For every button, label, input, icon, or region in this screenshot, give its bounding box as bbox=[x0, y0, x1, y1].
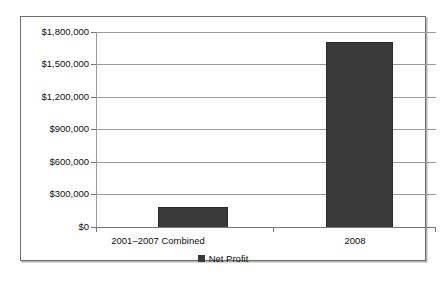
y-axis-label-900000: $900,000 bbox=[49, 124, 89, 134]
y-axis-labels: $1,800,000 $1,500,000 $1,200,000 $900,00… bbox=[21, 32, 89, 228]
x-axis-line bbox=[96, 227, 436, 228]
y-tick-900000 bbox=[91, 129, 96, 130]
y-axis-label-1500000: $1,500,000 bbox=[41, 59, 89, 69]
y-axis-label-300000: $300,000 bbox=[49, 189, 89, 199]
chart-frame: $1,800,000 $1,500,000 $1,200,000 $900,00… bbox=[20, 16, 426, 261]
bar-2008[interactable] bbox=[326, 42, 393, 228]
x-axis-label-2008: 2008 bbox=[275, 235, 435, 246]
y-axis-label-1200000: $1,200,000 bbox=[41, 92, 89, 102]
bar-2001-2007-combined[interactable] bbox=[158, 207, 228, 228]
y-axis-label-600000: $600,000 bbox=[49, 157, 89, 167]
y-tick-1800000 bbox=[91, 32, 96, 33]
gridline-1800000 bbox=[96, 32, 436, 33]
y-axis-line bbox=[96, 32, 97, 228]
plot-area bbox=[96, 32, 436, 228]
y-axis-label-0: $0 bbox=[78, 222, 89, 232]
y-tick-600000 bbox=[91, 162, 96, 163]
y-tick-1500000 bbox=[91, 64, 96, 65]
y-tick-1200000 bbox=[91, 97, 96, 98]
x-tick-start bbox=[96, 227, 97, 232]
y-axis-label-1800000: $1,800,000 bbox=[41, 27, 89, 37]
x-axis-label-2001-2007-combined: 2001–2007 Combined bbox=[43, 235, 273, 246]
x-tick-end bbox=[435, 227, 436, 232]
x-tick-middle bbox=[273, 227, 274, 232]
y-tick-300000 bbox=[91, 194, 96, 195]
legend-label-net-profit: Net Profit bbox=[209, 253, 249, 264]
chart-legend: Net Profit bbox=[21, 253, 425, 264]
legend-swatch-net-profit-icon bbox=[198, 255, 205, 262]
